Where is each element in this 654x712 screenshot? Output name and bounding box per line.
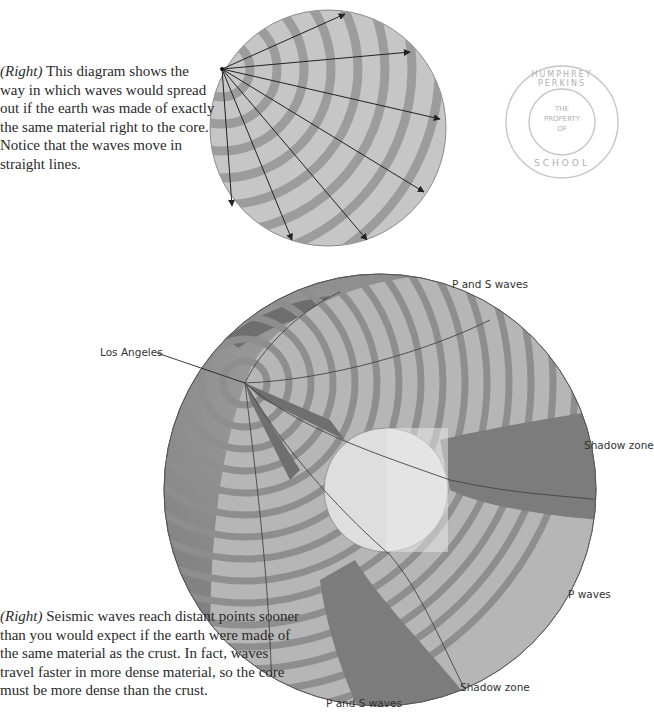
caption-body: Seismic waves reach distant points soone… — [0, 608, 299, 698]
stamp-line-of: OF — [506, 124, 618, 134]
stamp-line-property: PROPERTY — [506, 114, 618, 124]
stamp-ring-top: HUMPHREY PERKINS — [506, 70, 618, 88]
stamp-line-the: THE — [506, 104, 618, 114]
label-p-waves: P waves — [568, 588, 611, 600]
caption-lead: (Right) — [0, 63, 43, 79]
stamp-ring-bottom: SCHOOL — [506, 158, 618, 168]
label-shadow-zone-right: Shadow zone — [584, 439, 654, 451]
caption-body: This diagram shows the way in which wave… — [0, 63, 215, 172]
label-shadow-zone-bottom: Shadow zone — [460, 681, 530, 693]
epicenter-dot — [220, 67, 224, 71]
stamp-text: THE PROPERTY OF HUMPHREY PERKINS SCHOOL — [506, 66, 618, 178]
label-p-and-s-waves-bottom: P and S waves — [326, 697, 402, 709]
caption-lead: (Right) — [0, 608, 43, 624]
label-los-angeles: Los Angeles — [100, 346, 163, 358]
caption-uniform-earth: (Right) This diagram shows the way in wh… — [0, 62, 215, 173]
label-p-and-s-waves-top: P and S waves — [452, 278, 528, 290]
caption-seismic-waves: (Right) Seismic waves reach distant poin… — [0, 607, 300, 700]
